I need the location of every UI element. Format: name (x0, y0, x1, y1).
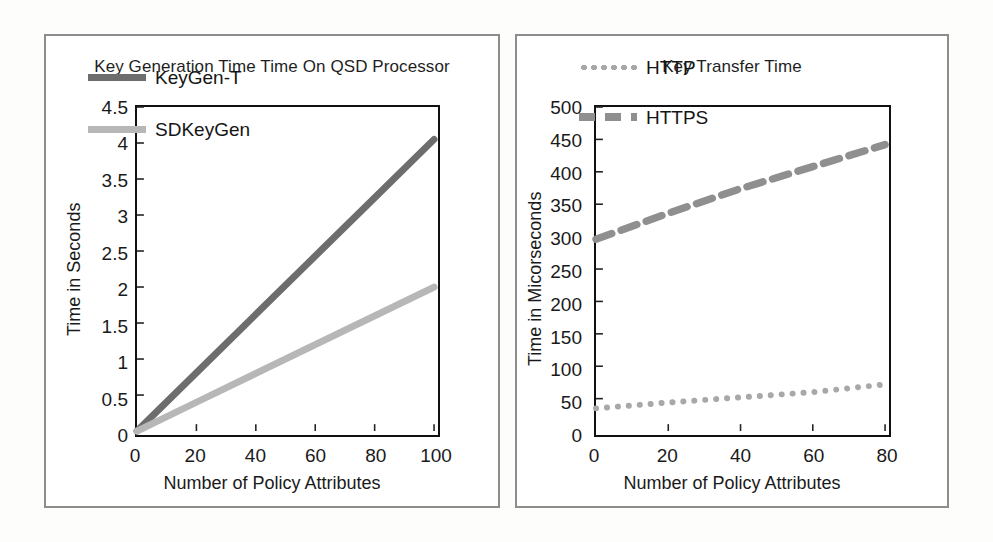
x-tick-label: 60 (305, 446, 326, 465)
series-line (596, 145, 885, 240)
y-tick-label: 200 (550, 294, 582, 313)
legend-swatch-solid-light-icon (88, 126, 146, 133)
y-tick-label: 1.5 (102, 316, 128, 335)
y-tick-label: 3 (117, 207, 128, 226)
x-tick-label: 40 (245, 446, 266, 465)
x-axis-title-right: Number of Policy Attributes (517, 472, 947, 494)
chart-panel-key-transfer: Key Transfer Time 0501001502002503003504… (515, 34, 949, 508)
x-tick-label: 100 (420, 446, 452, 465)
y-tick-label: 2.5 (102, 243, 128, 262)
y-tick-label: 350 (550, 196, 582, 215)
y-tick-label: 2 (117, 280, 128, 299)
legend-right: HTTP HTTPS (579, 54, 708, 154)
x-axis-title-left: Number of Policy Attributes (46, 472, 498, 494)
legend-label-https: HTTPS (646, 108, 708, 127)
x-tick-label: 0 (130, 446, 141, 465)
y-tick-label: 1 (117, 353, 128, 372)
y-tick-label: 400 (550, 163, 582, 182)
series-line (596, 384, 885, 408)
legend-item-https: HTTPS (579, 104, 708, 130)
y-tick-label: 0.5 (102, 389, 128, 408)
x-tick-label: 80 (365, 446, 386, 465)
y-axis-title-left: Time in Seconds (64, 203, 84, 336)
legend-label-keygen-t: KeyGen-T (155, 68, 242, 87)
x-tick-label: 20 (657, 446, 678, 465)
y-tick-label: 250 (550, 262, 582, 281)
y-tick-label: 150 (550, 327, 582, 346)
plot-lines-right (596, 107, 889, 435)
y-tick-label: 0 (117, 426, 128, 445)
series-line (137, 139, 434, 431)
legend-swatch-dashed-icon (579, 113, 637, 121)
legend-left: KeyGen-T SDKeyGen (88, 64, 250, 168)
x-tick-label: 80 (876, 446, 897, 465)
chart-panel-key-generation: Key Generation Time Time On QSD Processo… (44, 34, 500, 508)
y-tick-label: 300 (550, 229, 582, 248)
y-tick-label: 450 (550, 130, 582, 149)
legend-label-sdkeygen: SDKeyGen (155, 120, 250, 139)
y-tick-label: 3.5 (102, 170, 128, 189)
x-tick-label: 0 (589, 446, 600, 465)
x-tick-label: 20 (185, 446, 206, 465)
plot-area-right (594, 105, 891, 437)
legend-label-http: HTTP (646, 58, 696, 77)
x-tick-label: 40 (730, 446, 751, 465)
x-axis-ticks-left: 020406080100 (135, 446, 440, 470)
legend-swatch-solid-dark-icon (88, 74, 146, 81)
y-tick-label: 50 (561, 393, 582, 412)
legend-item-http: HTTP (579, 54, 708, 80)
x-tick-label: 60 (803, 446, 824, 465)
y-tick-label: 100 (550, 360, 582, 379)
x-axis-ticks-right: 020406080 (594, 446, 891, 470)
legend-swatch-dotted-icon (579, 64, 637, 71)
legend-item-sdkeygen: SDKeyGen (88, 116, 250, 142)
y-tick-label: 500 (550, 98, 582, 117)
y-axis-title-right: Time in Micorseconds (525, 192, 545, 366)
series-line (137, 287, 434, 431)
y-tick-label: 0 (571, 426, 582, 445)
legend-item-keygen-t: KeyGen-T (88, 64, 250, 90)
